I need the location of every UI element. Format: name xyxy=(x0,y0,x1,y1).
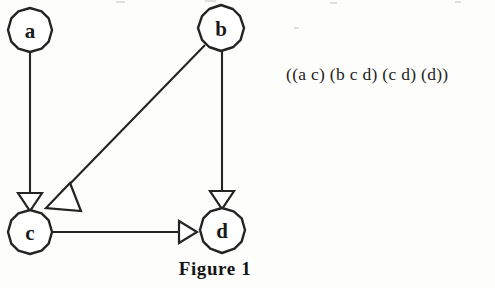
graph-node-c[interactable]: c xyxy=(8,210,52,254)
node-a-label: a xyxy=(25,19,36,43)
graph-node-b[interactable]: b xyxy=(198,5,244,51)
edge-b-to-d-arrowhead xyxy=(210,191,234,209)
edge-c-to-d-arrowhead xyxy=(179,221,197,243)
node-b-label: b xyxy=(215,17,227,41)
edge-a-to-c xyxy=(18,52,42,211)
node-c-label: c xyxy=(25,221,34,245)
edge-c-to-d xyxy=(52,221,197,243)
edge-b-to-c xyxy=(46,45,205,211)
directed-graph-diagram: a b c d xyxy=(0,0,495,288)
edge-b-to-c-arrowhead xyxy=(46,183,81,211)
figure-page: a b c d ((a c) (b c d) (c d) (d)) Figure… xyxy=(0,0,495,288)
graph-node-a[interactable]: a xyxy=(8,8,52,52)
edge-b-to-c-line xyxy=(62,45,205,192)
edge-a-to-c-arrowhead xyxy=(18,193,42,211)
figure-caption: Figure 1 xyxy=(0,258,430,280)
edge-b-to-d xyxy=(210,51,234,209)
graph-node-d[interactable]: d xyxy=(200,208,245,253)
node-d-label: d xyxy=(216,219,228,243)
set-notation-text: ((a c) (b c d) (c d) (d)) xyxy=(286,64,448,85)
